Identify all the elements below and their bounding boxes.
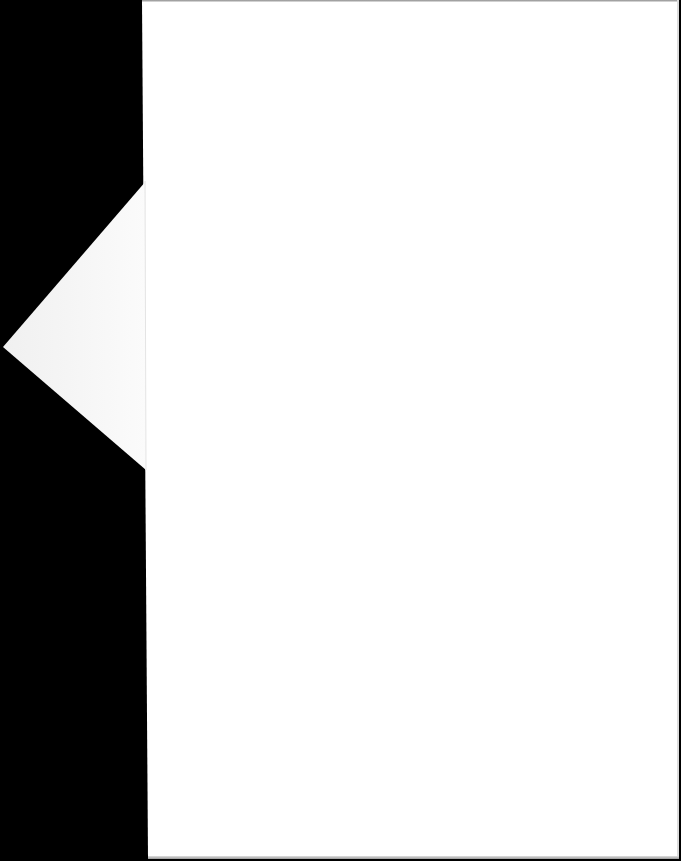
scan-background — [0, 0, 681, 861]
folded-page-corner-icon — [0, 0, 160, 861]
page-text — [142, 1, 679, 858]
